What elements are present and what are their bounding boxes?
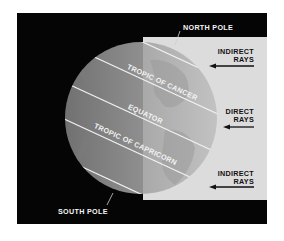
rays-label-bottom: INDIRECT RAYS xyxy=(218,170,254,186)
rays-label-top-line2: RAYS xyxy=(218,56,254,64)
rays-label-middle: DIRECT RAYS xyxy=(225,108,254,124)
rays-label-top: INDIRECT RAYS xyxy=(218,48,254,64)
rays-label-middle-line2: RAYS xyxy=(225,116,254,124)
south-pole-label: SOUTH POLE xyxy=(58,208,108,216)
rays-label-bottom-line2: RAYS xyxy=(218,178,254,186)
earth-sun-rays-diagram: NORTH POLE SOUTH POLE TROPIC OF CANCER E… xyxy=(0,0,284,241)
north-pole-label: NORTH POLE xyxy=(183,24,233,32)
